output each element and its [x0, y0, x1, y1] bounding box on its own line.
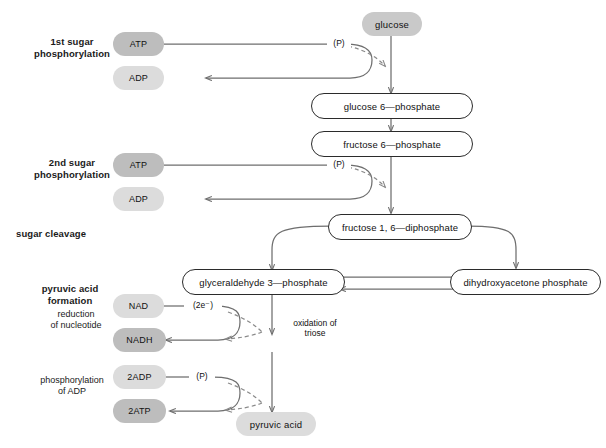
metabolite-box-dihydroxyacetone-phosphate[interactable]: dihydroxyacetone phosphate	[450, 269, 601, 295]
cofactor-pill-nadh[interactable]: NADH	[113, 328, 166, 352]
line-phosphate-transfer-3-helper	[228, 383, 262, 403]
note-oxidation-of-triose: oxidation of triose	[278, 318, 352, 338]
arrow-fdp-to-dhap	[468, 226, 516, 268]
metabolite-box-fructose-6-phosphate[interactable]: fructose 6—phosphate	[311, 131, 473, 157]
substrate-pill-pyruvic-acid[interactable]: pyruvic acid	[236, 412, 316, 436]
note-phosphate-1: (P)	[327, 38, 351, 48]
arrow-electron-transfer	[226, 332, 262, 339]
cofactor-pill-atp-1[interactable]: ATP	[113, 32, 164, 56]
sub-label-reduction-of-nucleotide: reduction of nucleotide	[24, 309, 128, 331]
arrow-loop-to-adp1	[206, 44, 372, 78]
metabolite-box-fructose-1-6-diphosphate[interactable]: fructose 1, 6—diphosphate	[328, 214, 472, 240]
arrow-loop-to-2atp	[170, 377, 240, 411]
stage-label-1st-sugar-phosphorylation: 1st sugar phosphorylation	[16, 36, 128, 59]
metabolite-box-glyceraldehyde-3-phosphate[interactable]: glyceraldehyde 3—phosphate	[182, 269, 345, 295]
arrow-loop-to-nadh	[166, 306, 240, 340]
cofactor-pill-atp-2[interactable]: ATP	[113, 153, 164, 177]
substrate-pill-glucose[interactable]: glucose	[362, 12, 422, 36]
note-phosphate-2: (P)	[327, 159, 351, 169]
arrow-fdp-to-g3p	[272, 226, 330, 270]
cofactor-pill-2atp[interactable]: 2ATP	[113, 399, 166, 423]
cofactor-pill-nad[interactable]: NAD	[113, 294, 164, 318]
cofactor-pill-adp-1[interactable]: ADP	[113, 66, 164, 90]
stage-label-2nd-sugar-phosphorylation: 2nd sugar phosphorylation	[16, 157, 128, 180]
note-two-electrons: (2e⁻)	[184, 300, 222, 310]
line-electron-transfer-helper	[228, 312, 262, 332]
stage-label-pyruvic-acid-formation: pyruvic acid formation	[16, 283, 124, 306]
stage-label-sugar-cleavage: sugar cleavage	[16, 228, 128, 240]
note-phosphate-3: (P)	[189, 371, 215, 381]
metabolite-box-glucose-6-phosphate[interactable]: glucose 6—phosphate	[311, 93, 473, 119]
arrow-phosphate-transfer-3	[226, 403, 262, 410]
cofactor-pill-2adp[interactable]: 2ADP	[113, 365, 166, 389]
cofactor-pill-adp-2[interactable]: ADP	[113, 187, 164, 211]
glycolysis-diagram: 1st sugar phosphorylation 2nd sugar phos…	[0, 0, 606, 448]
sub-label-phosphorylation-of-adp: phosphorylation of ADP	[16, 375, 128, 397]
arrow-loop-to-adp2	[206, 165, 372, 199]
